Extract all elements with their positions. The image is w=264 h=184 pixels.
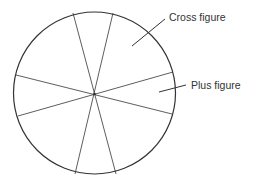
cross-figure-pointer-line [132, 19, 165, 46]
plus-figure-label: Plus figure [191, 80, 241, 91]
plus-figure-pointer-line [159, 85, 186, 92]
cross-figure-label: Cross figure [169, 12, 226, 23]
center-point [93, 93, 96, 96]
sectored-circle-diagram [0, 0, 264, 184]
